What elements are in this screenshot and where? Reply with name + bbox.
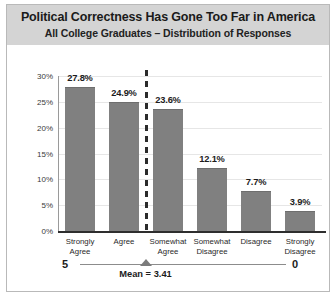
chart-figure: Political Correctness Has Gone Too Far i…	[0, 0, 336, 301]
mean-scale-right-label: 0	[292, 258, 298, 270]
bar	[153, 109, 183, 231]
bar	[197, 168, 227, 231]
bar	[109, 102, 139, 231]
gridline	[58, 205, 322, 206]
y-axis-tick-label: 10%	[37, 175, 53, 184]
plot-area: 0%5%10%15%20%25%30% 27.8%24.9%23.6%12.1%…	[58, 76, 322, 231]
bar	[241, 191, 271, 231]
divider-dashed-line	[145, 70, 148, 231]
x-axis-category-label: Strongly Disagree	[273, 237, 327, 257]
bar-value-label: 7.7%	[246, 177, 266, 187]
chart-title: Political Correctness Has Gone Too Far i…	[7, 10, 329, 24]
mean-marker-triangle-icon	[140, 259, 152, 266]
y-axis-tick-label: 30%	[37, 72, 53, 81]
bar-value-label: 23.6%	[155, 95, 180, 105]
y-axis-tick-label: 15%	[37, 149, 53, 158]
gridline	[58, 154, 322, 155]
bar	[285, 211, 315, 231]
y-axis-tick-label: 0%	[41, 227, 53, 236]
y-axis-tick-label: 20%	[37, 123, 53, 132]
mean-scale-line	[80, 264, 286, 265]
gridline	[58, 179, 322, 180]
bar	[65, 87, 95, 231]
bar-value-label: 27.8%	[67, 73, 92, 83]
bar-value-label: 3.9%	[290, 197, 310, 207]
gridline	[58, 76, 322, 77]
mean-scale: 5 0 Mean = 3.41	[58, 258, 322, 290]
mean-scale-left-label: 5	[62, 258, 68, 270]
mean-value-label: Mean = 3.41	[119, 269, 171, 279]
y-axis-tick-label: 25%	[37, 97, 53, 106]
x-axis-line	[58, 231, 326, 233]
y-axis-tick-label: 5%	[41, 201, 53, 210]
y-axis-line	[58, 76, 59, 231]
plot-container: 0%5%10%15%20%25%30% 27.8%24.9%23.6%12.1%…	[7, 46, 329, 292]
bar-value-label: 24.9%	[111, 88, 136, 98]
chart-subtitle: All College Graduates – Distribution of …	[7, 27, 329, 39]
gridline	[58, 102, 322, 103]
gridline	[58, 128, 322, 129]
bar-value-label: 12.1%	[199, 154, 224, 164]
